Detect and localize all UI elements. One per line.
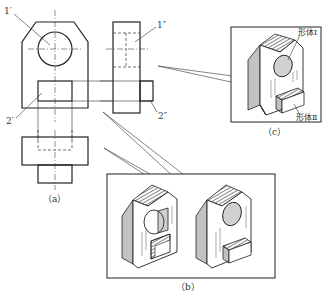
caption-c: （c） [263,128,286,137]
frame-b [107,174,275,278]
label-body-1: 形体Ⅰ [298,28,317,37]
label-2-double-prime: 2″ [158,112,167,121]
caption-a: （a） [43,195,66,204]
frame-c [231,27,321,122]
label-1-prime: 1′ [4,7,12,16]
drawing-svg [0,0,327,298]
side-view [100,22,157,113]
caption-b: （b） [176,283,200,292]
label-1-double-prime: 1″ [157,21,166,30]
technical-drawing: 1′ 1″ 2′ 2″ 形体Ⅰ 形体Ⅱ （a） （b） （c） [0,0,327,298]
front-view [14,10,153,140]
label-2-prime: 2′ [6,117,14,126]
top-view [22,130,88,190]
label-body-2: 形体Ⅱ [296,113,317,122]
callout-lines [103,66,240,178]
